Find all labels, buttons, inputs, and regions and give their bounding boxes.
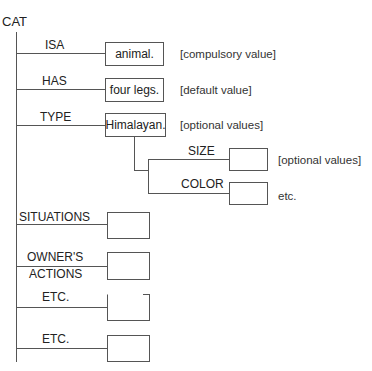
etc1-value-box [107,294,150,321]
owners-actions-value-box [107,252,150,280]
color-value-box [229,182,268,205]
etc1-label: ETC. [42,291,69,303]
etc2-connector [16,348,107,349]
type-sub-spine [148,159,149,193]
isa-connector [16,53,105,54]
has-note: [default value] [180,84,252,96]
type-label: TYPE [40,111,71,123]
etc2-value-box [107,335,150,362]
type-sub-drop [134,137,135,170]
size-label: SIZE [188,145,215,157]
isa-value: animal. [115,47,154,61]
situations-connector [16,224,107,225]
size-connector [148,159,229,160]
type-value-box: Himalayan. [105,113,166,137]
etc1-connector [16,307,107,308]
root-spine [16,32,17,362]
etc2-label: ETC. [42,333,69,345]
root-label: CAT [2,16,27,28]
has-connector [16,89,105,90]
isa-label: ISA [45,39,64,51]
has-value-box: four legs. [105,78,164,102]
type-note: [optional values] [180,119,263,131]
color-connector [148,193,229,194]
situations-label: SITUATIONS [19,211,90,223]
has-value: four legs. [110,83,159,97]
color-label: COLOR [181,178,224,190]
type-connector [16,125,105,126]
size-value-box [229,148,268,171]
situations-value-box [107,212,150,239]
owners-label-line1: OWNER'S [27,251,83,263]
isa-note: [compulsory value] [180,48,276,60]
type-sub-link [134,170,148,171]
color-note: etc. [278,190,297,202]
type-value: Himalayan. [105,118,165,132]
has-label: HAS [42,75,67,87]
owners-label-line2: ACTIONS [29,268,82,280]
size-note: [optional values] [278,154,361,166]
etc1-box-top-fragment [143,294,150,295]
isa-value-box: animal. [105,42,164,66]
